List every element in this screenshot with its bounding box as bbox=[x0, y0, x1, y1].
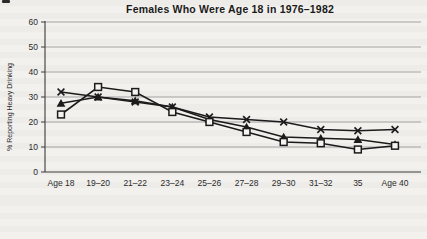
plot-area: 0102030405060Age 1819–2021–2223–2425–262… bbox=[0, 0, 427, 200]
x-tick-label: 19–20 bbox=[86, 178, 110, 188]
y-tick-label: 20 bbox=[29, 117, 39, 127]
y-tick-label: 30 bbox=[29, 92, 39, 102]
x-tick-label: 29–30 bbox=[272, 178, 296, 188]
heavy-drinking-line-chart: Females Who Were Age 18 in 1976–1982 % R… bbox=[0, 0, 427, 200]
x-tick-label: 27–28 bbox=[235, 178, 259, 188]
y-tick-label: 50 bbox=[29, 42, 39, 52]
y-tick-label: 60 bbox=[29, 17, 39, 27]
cohort-square-marker bbox=[317, 140, 324, 147]
x-tick-label: 35 bbox=[353, 178, 363, 188]
series-line-triangle-filled bbox=[61, 97, 395, 145]
cohort-square-marker bbox=[243, 129, 250, 136]
cohort-square-marker bbox=[132, 89, 139, 96]
y-tick-label: 10 bbox=[29, 142, 39, 152]
y-tick-label: 0 bbox=[33, 167, 38, 177]
x-tick-label: Age 18 bbox=[48, 178, 75, 188]
cohort-square-marker bbox=[392, 142, 399, 149]
cohort-square-marker bbox=[95, 84, 102, 91]
cohort-square-marker bbox=[354, 146, 361, 153]
cohort-square-marker bbox=[280, 139, 287, 146]
x-tick-label: 21–22 bbox=[123, 178, 147, 188]
y-tick-label: 40 bbox=[29, 67, 39, 77]
x-tick-label: 23–24 bbox=[161, 178, 185, 188]
x-tick-label: 31–32 bbox=[309, 178, 333, 188]
x-tick-label: 25–26 bbox=[198, 178, 222, 188]
x-tick-label: Age 40 bbox=[382, 178, 409, 188]
cohort-square-marker bbox=[206, 119, 213, 126]
cohort-square-marker bbox=[169, 109, 176, 116]
cohort-square-marker bbox=[58, 111, 65, 118]
